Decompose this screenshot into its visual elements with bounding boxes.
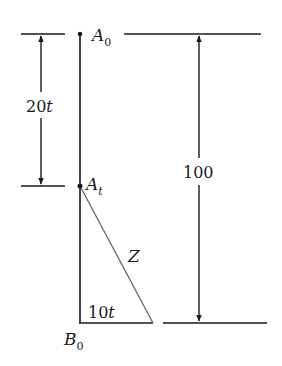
label-10t: 10t — [88, 303, 115, 322]
label-b0: B0 — [63, 329, 84, 353]
label-z: Z — [127, 246, 141, 266]
a0-point — [78, 32, 83, 37]
label-100: 100 — [183, 163, 214, 182]
diagram-canvas: A0 At B0 20t 100 Z 10t — [0, 0, 282, 366]
label-a0: A0 — [90, 25, 111, 49]
at-point — [78, 184, 83, 189]
label-20t: 20t — [26, 97, 53, 116]
label-at: At — [84, 174, 103, 198]
